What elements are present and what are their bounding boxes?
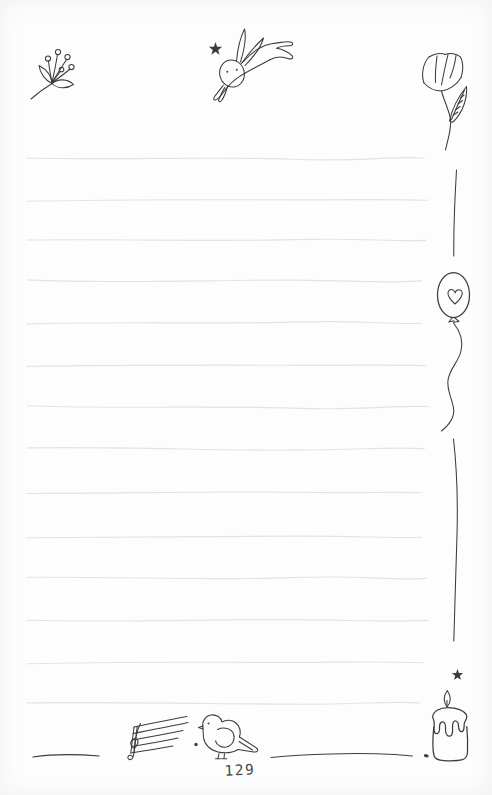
ink-dot-right [425, 754, 428, 757]
ruled-line [27, 239, 426, 241]
ruled-line [27, 406, 428, 409]
page-canvas: 129 [0, 0, 492, 795]
ruled-lines [27, 158, 428, 705]
ruled-line [27, 492, 420, 494]
page-number: 129 [224, 761, 255, 778]
ruled-line [27, 158, 424, 160]
ruled-line [27, 577, 427, 579]
ruled-line [27, 620, 428, 622]
bird-doodle [199, 715, 258, 759]
bottom-right-border-line [271, 754, 413, 758]
ruled-line [27, 365, 425, 366]
ink-dot-left [194, 743, 197, 746]
candle-star-icon [452, 669, 463, 680]
bottom-left-border-line [33, 755, 99, 757]
ruled-line [27, 280, 421, 282]
ruled-line [27, 448, 424, 451]
sparkle-star-icon [209, 42, 222, 55]
ruled-line [27, 662, 423, 664]
candle-doodle [424, 691, 468, 761]
berry-sprig-doodle [31, 49, 74, 99]
ruled-line [27, 536, 422, 538]
right-margin-line-top [454, 170, 457, 256]
notebook-page: 129 [0, 0, 492, 795]
leaping-rabbit-doodle [214, 29, 293, 102]
music-staff-doodle [128, 717, 188, 760]
ruled-line [27, 702, 420, 704]
ruled-line [27, 200, 428, 202]
right-margin-line-bottom [454, 439, 458, 641]
ruled-line [27, 322, 421, 324]
tulip-flower-doodle [423, 53, 467, 150]
heart-balloon-doodle [438, 273, 470, 432]
